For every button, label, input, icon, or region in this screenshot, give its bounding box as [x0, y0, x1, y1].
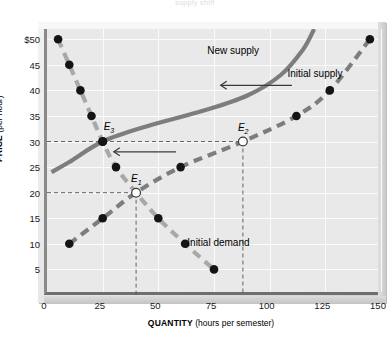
- y-tick-label: 5: [6, 264, 40, 275]
- x-tick-label: 150: [370, 300, 386, 311]
- y-tick-label: $50: [6, 34, 40, 45]
- label-e3: E3: [104, 121, 115, 134]
- y-tick-label: 30: [6, 136, 40, 147]
- equilibrium-point-e2: [239, 137, 248, 146]
- equilibrium-label-subscript: 1: [138, 179, 142, 186]
- data-point-marker: [326, 86, 335, 95]
- supply-demand-figure: supply shift New supplyInitial supplyIni…: [0, 0, 390, 340]
- plot-frame-top-bevel: [38, 22, 386, 29]
- y-tick-label: 10: [6, 238, 40, 249]
- data-point-marker: [176, 163, 185, 172]
- data-point-marker: [112, 163, 121, 172]
- label-new-supply: New supply: [207, 45, 259, 56]
- x-tick-label: 25: [94, 300, 105, 311]
- data-point-marker: [292, 112, 301, 121]
- x-tick-label: 100: [259, 300, 275, 311]
- equilibrium-point-e1: [132, 188, 141, 197]
- y-tick-label: 15: [6, 213, 40, 224]
- data-point-marker: [65, 61, 74, 70]
- label-initial-supply: Initial supply: [288, 68, 343, 79]
- data-point-marker: [65, 240, 74, 249]
- y-tick-label: 20: [6, 187, 40, 198]
- y-tick-label: 25: [6, 162, 40, 173]
- plot-area: New supplyInitial supplyInitial demandE1…: [44, 29, 378, 295]
- y-axis-title-bold: PRICE: [0, 135, 4, 162]
- equilibrium-point-e3: [98, 137, 107, 146]
- y-axis-title: PRICE (per hour): [0, 95, 4, 162]
- equilibrium-label-subscript: 2: [245, 128, 249, 135]
- curve-new-supply: [52, 29, 315, 172]
- y-tick-label: 35: [6, 111, 40, 122]
- data-point-marker: [54, 35, 63, 44]
- data-point-marker: [366, 35, 375, 44]
- equilibrium-label-subscript: 3: [110, 127, 114, 134]
- x-tick-label: 0: [41, 300, 46, 311]
- x-axis-ticks: 0255075100125150: [44, 300, 388, 316]
- y-axis-title-rest: (per hour): [0, 95, 4, 135]
- y-axis-ticks: $5045403530252015105: [0, 29, 40, 295]
- figure-title-faint: supply shift: [0, 0, 390, 8]
- x-tick-label: 125: [314, 300, 330, 311]
- data-point-marker: [154, 214, 163, 223]
- x-axis-title-bold: QUANTITY: [148, 318, 193, 328]
- data-point-marker: [76, 86, 85, 95]
- label-e1: E1: [131, 173, 142, 186]
- x-tick-label: 75: [206, 300, 217, 311]
- data-point-marker: [98, 214, 107, 223]
- x-axis-title-rest: (hours per semester): [193, 318, 274, 328]
- label-initial-demand: Initial demand: [187, 237, 249, 248]
- data-point-marker: [87, 112, 96, 121]
- y-tick-label: 40: [6, 85, 40, 96]
- gridline-vertical: [381, 29, 382, 292]
- y-tick-label: 45: [6, 59, 40, 70]
- data-point-marker: [210, 265, 219, 274]
- x-axis-title: QUANTITY (hours per semester): [44, 318, 378, 328]
- x-tick-label: 50: [150, 300, 161, 311]
- label-e2: E2: [238, 122, 249, 135]
